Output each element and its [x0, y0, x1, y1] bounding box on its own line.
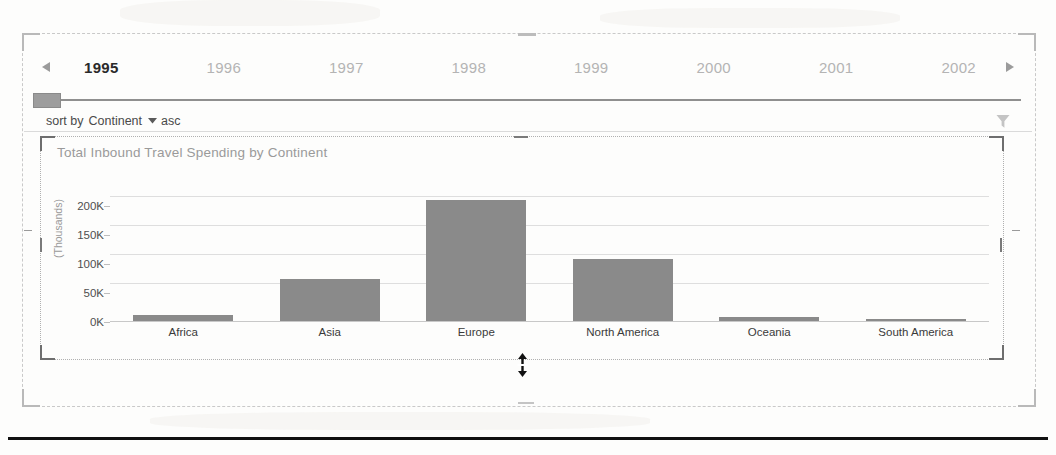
bar-north-america[interactable] [573, 259, 673, 321]
timeline-slider[interactable] [33, 93, 1023, 107]
chevron-down-icon[interactable] [148, 117, 157, 124]
triangle-left-icon [40, 60, 54, 74]
y-tick-mark-0 [104, 322, 110, 323]
timeline-year-1999[interactable]: 1999 [574, 59, 609, 76]
bar-africa[interactable] [133, 315, 233, 321]
timeline-year-1996[interactable]: 1996 [206, 59, 241, 76]
selection-handle-top[interactable] [518, 33, 536, 36]
y-axis-labels: 0K 50K 100K 150K 200K [60, 188, 104, 328]
selection-corner-bottom-right[interactable] [1018, 389, 1036, 407]
timeline-year-1998[interactable]: 1998 [451, 59, 486, 76]
timeline-year-2000[interactable]: 2000 [696, 59, 731, 76]
bar-slot-south-america[interactable] [843, 196, 990, 321]
bar-slot-europe[interactable] [403, 196, 550, 321]
sort-description: sort byContinentasc [46, 114, 185, 128]
slider-thumb[interactable] [33, 93, 61, 108]
timeline-year-1995[interactable]: 1995 [84, 59, 119, 76]
sort-bar-divider [24, 131, 1032, 132]
x-label-africa: Africa [110, 326, 257, 346]
chart-handle-left[interactable] [40, 238, 42, 252]
bar-series [110, 196, 989, 321]
sort-field-label[interactable]: Continent [89, 114, 143, 128]
timeline-year-1997[interactable]: 1997 [329, 59, 364, 76]
paper-texture [600, 8, 900, 28]
sort-bar[interactable]: sort byContinentasc [24, 110, 1032, 132]
slider-track[interactable] [41, 99, 1021, 101]
x-label-europe: Europe [403, 326, 550, 346]
timeline-next-button[interactable] [998, 56, 1020, 78]
x-label-north-america: North America [550, 326, 697, 346]
filter-funnel-icon[interactable] [996, 114, 1010, 129]
y-tick-label-4: 200K [77, 200, 104, 212]
timeline-year-2002[interactable]: 2002 [941, 59, 976, 76]
page-bottom-rule [8, 437, 1048, 440]
bar-europe[interactable] [426, 200, 526, 321]
paper-texture [150, 412, 650, 430]
chart-plot-area [110, 196, 989, 322]
y-tick-label-2: 100K [77, 258, 104, 270]
page-guide-tick-left [24, 230, 32, 231]
bar-south-america[interactable] [866, 319, 966, 321]
y-tick-label-1: 50K [84, 287, 104, 299]
bar-slot-oceania[interactable] [696, 196, 843, 321]
x-label-south-america: South America [843, 326, 990, 346]
x-axis-line [110, 321, 989, 322]
selection-corner-bottom-left[interactable] [22, 389, 40, 407]
triangle-right-icon [1002, 60, 1016, 74]
chart-title: Total Inbound Travel Spending by Contine… [57, 145, 327, 160]
bar-oceania[interactable] [719, 317, 819, 321]
selection-handle-bottom[interactable] [518, 402, 534, 404]
x-axis-labels: Africa Asia Europe North America Oceania… [110, 326, 989, 346]
x-label-oceania: Oceania [696, 326, 843, 346]
x-label-asia: Asia [257, 326, 404, 346]
page-guide-tick-right [1012, 230, 1020, 231]
bar-slot-north-america[interactable] [550, 196, 697, 321]
bar-slot-africa[interactable] [110, 196, 257, 321]
y-tick-label-0: 0K [90, 316, 104, 328]
paper-texture [120, 0, 380, 26]
y-tick-label-3: 150K [77, 229, 104, 241]
timeline-year-2001[interactable]: 2001 [819, 59, 854, 76]
bar-asia[interactable] [280, 279, 380, 321]
sort-prefix-label: sort by [46, 114, 84, 128]
sort-direction-label[interactable]: asc [161, 114, 180, 128]
resize-vertical-cursor[interactable] [513, 352, 531, 378]
timeline-years: 1995 1996 1997 1998 1999 2000 2001 2002 [58, 59, 998, 76]
chart-handle-top[interactable] [514, 136, 528, 138]
report-page: 1995 1996 1997 1998 1999 2000 2001 2002 … [0, 0, 1056, 455]
selection-corner-top-right[interactable] [1018, 33, 1036, 51]
selection-corner-top-left[interactable] [22, 33, 40, 51]
bar-slot-asia[interactable] [257, 196, 404, 321]
timeline-prev-button[interactable] [36, 56, 58, 78]
chart-handle-right[interactable] [1000, 238, 1002, 252]
year-timeline-slicer[interactable]: 1995 1996 1997 1998 1999 2000 2001 2002 [36, 50, 1020, 84]
